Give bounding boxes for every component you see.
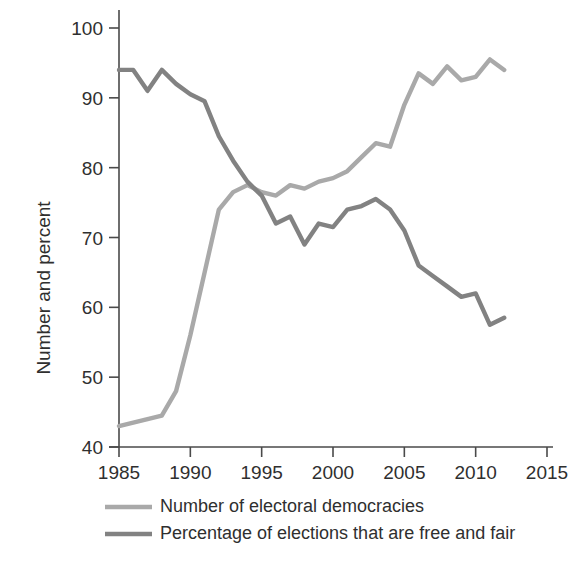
y-tick-label: 70 xyxy=(82,228,103,249)
legend-label-percentage-free-and-fair: Percentage of elections that are free an… xyxy=(160,523,515,543)
y-axis-tick-marks xyxy=(109,28,119,447)
x-tick-label: 1995 xyxy=(241,462,283,483)
y-tick-label: 50 xyxy=(82,367,103,388)
y-tick-label: 40 xyxy=(82,437,103,458)
x-tick-label: 2005 xyxy=(383,462,425,483)
x-tick-label: 2010 xyxy=(455,462,497,483)
y-tick-label: 90 xyxy=(82,88,103,109)
x-tick-label: 1985 xyxy=(98,462,140,483)
y-tick-label: 100 xyxy=(71,18,103,39)
series-line-number-of-electoral-democracies xyxy=(119,59,504,426)
y-tick-label: 80 xyxy=(82,158,103,179)
x-tick-label: 1990 xyxy=(169,462,211,483)
x-tick-label: 2015 xyxy=(526,462,568,483)
y-tick-label: 60 xyxy=(82,297,103,318)
line-chart: 405060708090100 198519901995200020052010… xyxy=(0,0,586,567)
legend-label-number-of-electoral-democracies: Number of electoral democracies xyxy=(160,496,424,516)
series-line-percentage-free-and-fair xyxy=(119,70,504,325)
y-axis-tick-labels: 405060708090100 xyxy=(71,18,103,458)
chart-legend: Number of electoral democracies Percenta… xyxy=(105,496,515,543)
x-axis-tick-labels: 1985199019952000200520102015 xyxy=(98,462,568,483)
y-axis-title: Number and percent xyxy=(33,201,54,375)
x-tick-label: 2000 xyxy=(312,462,354,483)
x-axis-tick-marks xyxy=(119,447,547,457)
chart-figure: 405060708090100 198519901995200020052010… xyxy=(0,0,586,567)
